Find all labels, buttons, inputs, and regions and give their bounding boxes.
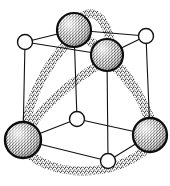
- node-a3-large-sphere: [5, 122, 41, 158]
- node-a4-large-sphere: [133, 118, 167, 152]
- lattice-diagram: [0, 0, 170, 186]
- node-a1-large-sphere: [57, 13, 91, 47]
- bond-a2-a3-left-inner: [28, 64, 100, 130]
- node-b1-small-circle: [18, 35, 33, 50]
- figure-caption: [0, 174, 170, 186]
- lattice-figure: [0, 0, 170, 186]
- node-b2-small-circle: [139, 29, 154, 44]
- node-b4-small-circle: [101, 154, 116, 169]
- node-a2-large-sphere: [91, 39, 123, 71]
- bond-a1-a3-left-front: [25, 40, 70, 128]
- node-b3-small-circle: [70, 112, 85, 127]
- bond-a2-a4-right-front: [114, 66, 152, 124]
- bond-a3-a4-under-bottom: [26, 148, 148, 171]
